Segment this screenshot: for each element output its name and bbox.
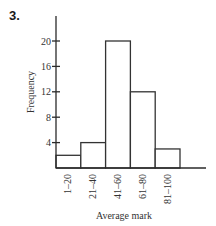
x-tick-label: 21–40 bbox=[87, 174, 98, 199]
bars-group bbox=[56, 41, 180, 168]
y-tick-label: 8 bbox=[46, 112, 51, 123]
y-tick-label: 12 bbox=[41, 86, 51, 97]
y-tick-label: 16 bbox=[41, 61, 51, 72]
bar-41–60 bbox=[106, 41, 131, 168]
x-tick-label: 61–80 bbox=[137, 174, 148, 199]
bar-81–100 bbox=[155, 149, 180, 168]
y-ticks-group: 48121620 bbox=[41, 36, 60, 149]
y-tick-label: 4 bbox=[46, 137, 51, 148]
x-tick-label: 41–60 bbox=[112, 174, 123, 199]
x-ticks-group: 1–2021–4041–6061–8081–100 bbox=[62, 174, 172, 204]
x-tick-label: 81–100 bbox=[162, 174, 173, 204]
question-number: 3. bbox=[9, 8, 20, 23]
histogram-chart: 3. 48121620 1–2021–4041–6061–8081–100 Fr… bbox=[0, 0, 216, 226]
bar-1–20 bbox=[56, 155, 81, 168]
bar-21–40 bbox=[81, 143, 106, 168]
bar-61–80 bbox=[130, 92, 155, 168]
x-axis-title: Average mark bbox=[96, 210, 152, 221]
x-tick-label: 1–20 bbox=[62, 174, 73, 194]
y-tick-label: 20 bbox=[41, 36, 51, 47]
y-axis-title: Frequency bbox=[25, 71, 36, 113]
